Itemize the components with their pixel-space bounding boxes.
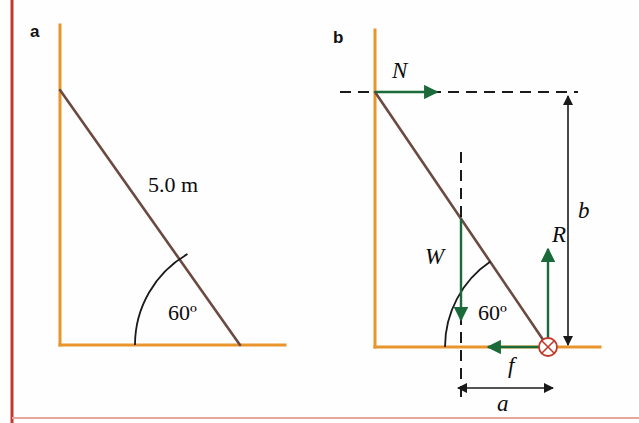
weight-force-label: W	[425, 244, 444, 270]
base-dimension-label: a	[497, 391, 509, 417]
figure-artwork	[0, 0, 639, 423]
ladder-length-label: 5.0 m	[148, 172, 198, 198]
ladder-physics-figure: a 5.0 m 60º b N W R f b a 60º	[0, 0, 639, 423]
panel-b-artwork	[340, 30, 600, 400]
panel-a-label: a	[30, 22, 39, 42]
friction-force-label: f	[508, 353, 514, 379]
panel-a-angle-label: 60º	[168, 300, 197, 326]
normal-force-label: N	[392, 58, 407, 84]
panel-a-ladder	[60, 90, 240, 345]
pivot-point-marker	[539, 338, 557, 356]
panel-b-angle-label: 60º	[478, 300, 507, 326]
height-dimension-label: b	[578, 198, 590, 224]
panel-b-label: b	[333, 28, 343, 48]
reaction-force-label: R	[552, 222, 566, 248]
page-rules	[12, 0, 639, 423]
